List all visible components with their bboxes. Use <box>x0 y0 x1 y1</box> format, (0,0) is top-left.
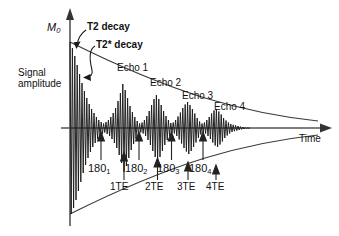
pulse-arrow-180-3 <box>168 132 175 160</box>
y-axis-arrowhead <box>66 8 74 20</box>
y-axis-caption: Signalamplitude <box>18 68 61 89</box>
spin-echo-plot <box>0 0 339 236</box>
t2star-decay-leader-arrowhead <box>83 74 91 81</box>
y-axis-label-m0: M0 <box>47 22 60 34</box>
t2-envelope-upper <box>70 42 318 121</box>
pulse-label-180-3: 1803 <box>157 163 180 175</box>
pulse-label-180-4: 1804 <box>189 163 212 175</box>
pulse-arrow-180-4 <box>200 132 207 160</box>
echo-label-4: Echo 4 <box>214 102 245 113</box>
x-axis-arrowhead <box>320 124 332 133</box>
pulse-label-180-2: 1802 <box>125 163 148 175</box>
te-label-3: 3TE <box>177 182 195 193</box>
echo-label-1: Echo 1 <box>117 63 148 74</box>
echo-label-2: Echo 2 <box>150 78 181 89</box>
t2-decay-leader-arrowhead <box>74 42 81 49</box>
echo-label-3: Echo 3 <box>182 91 213 102</box>
te-label-4: 4TE <box>206 182 224 193</box>
annotation-t2-decay: T2 decay <box>87 22 130 33</box>
te-label-1: 1TE <box>110 182 128 193</box>
x-axis-label-time: Time <box>299 134 321 145</box>
pulse-arrow-180-1 <box>98 132 105 160</box>
annotation-t2star-decay: T2* decay <box>96 40 143 51</box>
te-arrow-4 <box>213 165 220 180</box>
te-label-2: 2TE <box>145 182 163 193</box>
pulse-label-180-1: 1801 <box>88 163 111 175</box>
figure-canvas: M0 T2 decay T2* decay Signalamplitude Ti… <box>0 0 339 236</box>
